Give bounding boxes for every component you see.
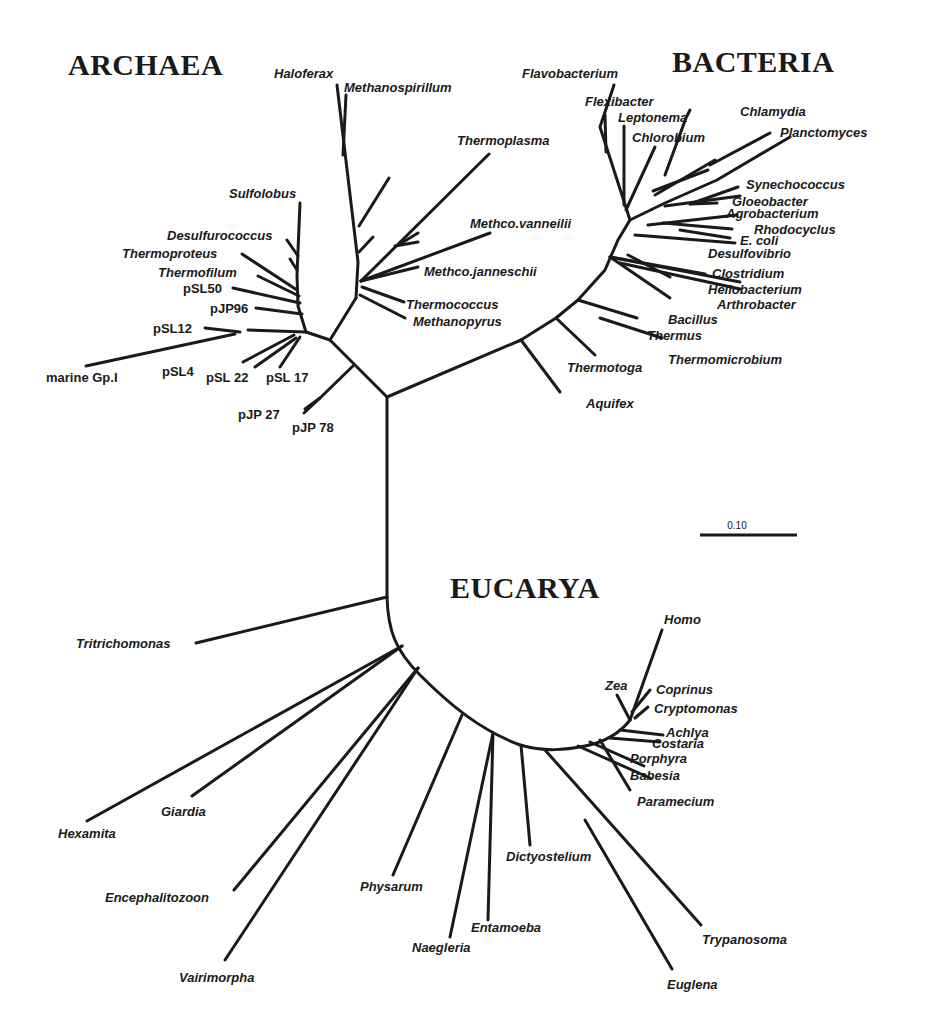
eucarya-labels: Homo Zea Coprinus Cryptomonas Achlya Cos… — [58, 612, 787, 992]
label-thermoproteus: Thermoproteus — [122, 246, 217, 261]
phylogenetic-tree: ARCHAEA BACTERIA EUCARYA — [0, 0, 930, 1029]
label-psl12: pSL12 — [153, 321, 192, 336]
label-thermotoga: Thermotoga — [567, 360, 642, 375]
label-methanospirillum: Methanospirillum — [344, 80, 452, 95]
label-paramecium: Paramecium — [637, 794, 715, 809]
label-chlamydia: Chlamydia — [740, 104, 806, 119]
label-agrobacterium: Agrobacterium — [725, 206, 819, 221]
label-methanopyrus: Methanopyrus — [413, 314, 502, 329]
label-bacillus: Bacillus — [668, 312, 718, 327]
label-pjp96: pJP96 — [210, 301, 248, 316]
label-methco-vanneilii: Methco.vanneilii — [470, 216, 572, 231]
domain-title-bacteria: BACTERIA — [672, 45, 834, 78]
label-costaria: Costaria — [652, 736, 704, 751]
label-pjp78: pJP 78 — [292, 420, 334, 435]
domain-title-archaea: ARCHAEA — [68, 48, 223, 81]
label-thermoplasma: Thermoplasma — [457, 133, 549, 148]
label-haloferax: Haloferax — [274, 66, 334, 81]
label-psl50: pSL50 — [183, 281, 222, 296]
label-psl4: pSL4 — [162, 364, 195, 379]
label-dictyostelium: Dictyostelium — [506, 849, 592, 864]
tritrichomonas-branch — [196, 597, 387, 643]
label-giardia: Giardia — [161, 804, 206, 819]
label-trypanosoma: Trypanosoma — [702, 932, 787, 947]
label-clostridium: Clostridium — [712, 266, 785, 281]
label-heliobacterium: Heliobacterium — [708, 282, 802, 297]
giardia-branch — [192, 646, 402, 796]
label-babesia: Babesia — [630, 768, 680, 783]
domain-title-eucarya: EUCARYA — [450, 571, 600, 604]
entamoeba-branch — [488, 733, 493, 920]
label-desulfovibrio: Desulfovibrio — [708, 246, 791, 261]
trunk-to-bacteria — [387, 340, 521, 397]
label-sulfolobus: Sulfolobus — [229, 186, 296, 201]
hexamita-branch — [87, 646, 402, 821]
label-hexamita: Hexamita — [58, 826, 116, 841]
eucarya-branches — [87, 597, 701, 969]
label-flexibacter: Flexibacter — [585, 94, 655, 109]
haloferax-branch — [337, 85, 358, 298]
naegleria-branch — [450, 733, 493, 937]
chlorobium-branch — [626, 147, 655, 210]
label-leptonema: Leptonema — [618, 110, 687, 125]
label-planctomyces: Planctomyces — [780, 125, 867, 140]
label-physarum: Physarum — [360, 879, 423, 894]
label-homo: Homo — [664, 612, 701, 627]
label-arthrobacter: Arthrobacter — [716, 297, 797, 312]
label-entamoeba: Entamoeba — [471, 920, 541, 935]
dictyostelium-branch — [521, 745, 530, 845]
paramecium-branch — [600, 740, 630, 790]
aquifex-branch — [521, 340, 560, 392]
physarum-branch — [393, 715, 462, 875]
label-tritrichomonas: Tritrichomonas — [76, 636, 170, 651]
label-coprinus: Coprinus — [656, 682, 713, 697]
label-thermofilum: Thermofilum — [158, 265, 237, 280]
central-trunk — [330, 340, 521, 597]
label-desulfurococcus: Desulfurococcus — [167, 228, 272, 243]
label-thermus: Thermus — [647, 328, 702, 343]
label-synechococcus: Synechococcus — [746, 177, 845, 192]
label-flavobacterium: Flavobacterium — [522, 66, 619, 81]
label-marine-gp1: marine Gp.I — [46, 370, 118, 385]
label-thermococcus: Thermococcus — [406, 297, 498, 312]
label-encephalitozoon: Encephalitozoon — [105, 890, 209, 905]
label-pjp27: pJP 27 — [238, 407, 280, 422]
label-euglena: Euglena — [667, 977, 718, 992]
label-methco-janneschii: Methco.janneschii — [424, 264, 537, 279]
thermotoga-branch — [556, 318, 595, 355]
scale-bar-label: 0.10 — [727, 520, 747, 531]
label-porphyra: Porphyra — [630, 751, 687, 766]
label-psl22: pSL 22 — [206, 370, 248, 385]
scale-bar: 0.10 — [700, 520, 797, 535]
label-chlorobium: Chlorobium — [632, 130, 705, 145]
label-zea: Zea — [604, 678, 627, 693]
label-cryptomonas: Cryptomonas — [654, 701, 738, 716]
trunk-to-archaea — [330, 340, 387, 397]
label-aquifex: Aquifex — [585, 396, 634, 411]
label-vairimorpha: Vairimorpha — [179, 970, 254, 985]
label-thermomicrobium: Thermomicrobium — [668, 352, 783, 367]
label-naegleria: Naegleria — [412, 940, 471, 955]
vairimorpha-branch — [225, 668, 418, 960]
label-psl17: pSL 17 — [266, 370, 308, 385]
archaea-labels: Haloferax Methanospirillum Thermoplasma … — [46, 66, 572, 435]
zea-branch — [617, 695, 630, 720]
